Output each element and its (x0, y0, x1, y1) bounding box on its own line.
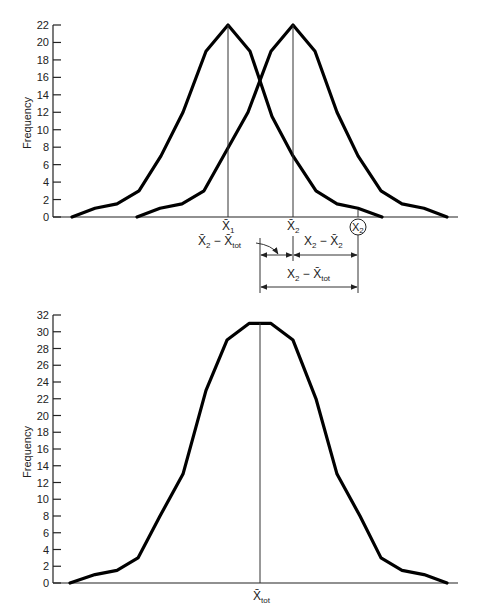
y-tick-label: 2 (43, 194, 49, 206)
y-tick-label: 22 (37, 393, 49, 405)
y-tick-label: 12 (37, 477, 49, 489)
y-tick-label: 24 (37, 376, 49, 388)
bottom-chart: 02468101214161820222426283032 Frequency … (21, 309, 458, 605)
y-tick-label: 4 (43, 176, 49, 188)
figure: 0246810121416182022 Frequency X̄1 X̄2 X2… (0, 0, 477, 616)
y-tick-label: 18 (37, 426, 49, 438)
y-tick-label: 0 (43, 211, 49, 223)
total-label: X2 − X̄tot (287, 267, 331, 283)
frequency-curve (70, 323, 447, 583)
mean2-label: X̄2 (287, 219, 300, 235)
frequency-curve (137, 25, 447, 217)
pointer-arrow (256, 243, 278, 254)
y-tick-label: 10 (37, 493, 49, 505)
bottom-curves (70, 323, 447, 583)
score-label: X2 (352, 221, 364, 235)
top-y-axis-title: Frequency (21, 97, 33, 149)
y-tick-label: 2 (43, 560, 49, 572)
bottom-axes: 02468101214161820222426283032 (37, 309, 458, 589)
within-label: X2 − X̄2 (304, 234, 343, 250)
y-tick-label: 14 (37, 460, 49, 472)
y-tick-label: 30 (37, 326, 49, 338)
top-curves (72, 25, 447, 217)
y-tick-label: 20 (37, 36, 49, 48)
y-tick-label: 6 (43, 527, 49, 539)
y-tick-label: 12 (37, 106, 49, 118)
y-tick-label: 8 (43, 141, 49, 153)
y-tick-label: 20 (37, 410, 49, 422)
between-label: X̄2 − X̄tot (198, 234, 242, 250)
grand-mean-label: X̄tot (253, 589, 271, 605)
y-tick-label: 10 (37, 124, 49, 136)
mean1-label: X̄1 (222, 219, 235, 235)
frequency-curve (72, 25, 382, 217)
y-tick-label: 0 (43, 577, 49, 589)
y-tick-label: 32 (37, 309, 49, 321)
y-tick-label: 4 (43, 544, 49, 556)
y-tick-label: 28 (37, 343, 49, 355)
y-tick-label: 26 (37, 359, 49, 371)
y-tick-label: 16 (37, 71, 49, 83)
y-tick-label: 6 (43, 159, 49, 171)
top-chart: 0246810121416182022 Frequency X̄1 X̄2 X2… (21, 19, 458, 293)
y-tick-label: 16 (37, 443, 49, 455)
y-tick-label: 22 (37, 19, 49, 31)
y-tick-label: 8 (43, 510, 49, 522)
y-tick-label: 14 (37, 89, 49, 101)
bottom-y-axis-title: Frequency (21, 426, 33, 478)
y-tick-label: 18 (37, 54, 49, 66)
